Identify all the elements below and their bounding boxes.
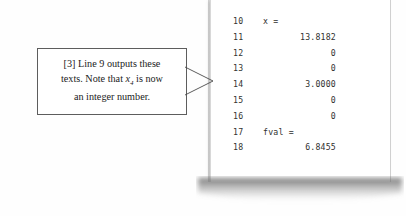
code-listing: 10 x = 11 13.8182 12 0 13 0 14 3.0000 15: [211, 14, 390, 156]
line-number: 11: [211, 30, 255, 46]
code-line-text: 6.8455: [255, 140, 390, 156]
annotation-callout-text: [3] Line 9 outputs these texts. Note tha…: [38, 49, 186, 105]
code-row: 10 x =: [211, 14, 390, 30]
code-row: 17 fval =: [211, 125, 390, 141]
code-line-text: 0: [255, 46, 390, 62]
line-number: 13: [211, 61, 255, 77]
code-row: 13 0: [211, 61, 390, 77]
code-line-text: 0: [255, 109, 390, 125]
code-line-text: fval =: [255, 125, 390, 141]
annotation-callout-box: [3] Line 9 outputs these texts. Note tha…: [37, 48, 187, 115]
line-number: 17: [211, 125, 255, 141]
code-row: 16 0: [211, 109, 390, 125]
callout-line-3: an integer number.: [44, 90, 180, 105]
callout-line-2-suffix: is now: [134, 73, 163, 84]
code-line-text: 0: [255, 93, 390, 109]
callout-line-2: texts. Note that x4 is now: [44, 72, 180, 91]
code-row: 18 6.8455: [211, 140, 390, 156]
line-number: 14: [211, 77, 255, 93]
line-number: 18: [211, 140, 255, 156]
code-line-text: 13.8182: [255, 30, 390, 46]
code-line-text: 3.0000: [255, 77, 390, 93]
code-line-text: x =: [255, 14, 390, 30]
code-row: 12 0: [211, 46, 390, 62]
code-line-text: 0: [255, 61, 390, 77]
callout-line-1: [3] Line 9 outputs these: [44, 57, 180, 72]
line-number: 10: [211, 14, 255, 30]
line-number: 16: [211, 109, 255, 125]
line-number: 15: [211, 93, 255, 109]
line-number: 12: [211, 46, 255, 62]
code-row: 14 3.0000: [211, 77, 390, 93]
callout-line-2-prefix: texts. Note that: [61, 73, 126, 84]
figure-container: 10 x = 11 13.8182 12 0 13 0 14 3.0000 15: [0, 0, 406, 216]
code-row: 15 0: [211, 93, 390, 109]
code-listing-panel: 10 x = 11 13.8182 12 0 13 0 14 3.0000 15: [210, 0, 391, 182]
code-row: 11 13.8182: [211, 30, 390, 46]
